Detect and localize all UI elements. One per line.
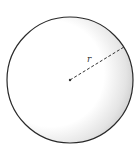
radius-label: r	[87, 54, 92, 64]
sphere-diagram: r	[0, 0, 138, 155]
center-point	[69, 79, 71, 81]
